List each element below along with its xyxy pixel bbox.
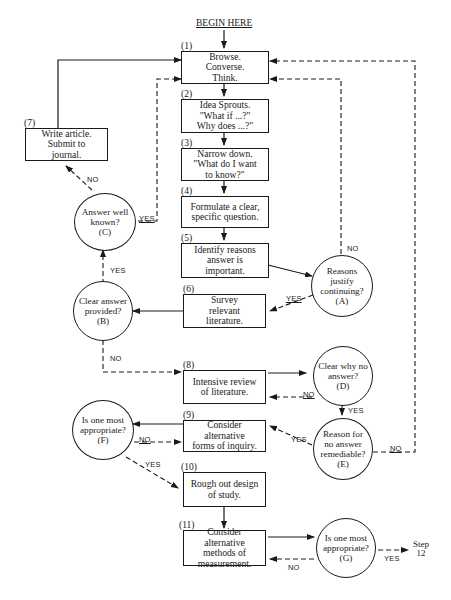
step-6-survey-literature[interactable]: Survey relevant literature. [183,294,266,328]
label-d-yes: YES [348,406,364,415]
step-2-idea-sprouts[interactable]: Idea Sprouts. "What if ...?" Why does ..… [181,99,269,133]
decision-e-reason-remediable[interactable]: Reason for no answer remediable? (E) [313,418,373,480]
step-5-identify-reasons[interactable]: Identify reasons answer is important. [181,243,269,278]
label-e-yes: YES [291,435,307,444]
label-g-no: NO [288,563,300,572]
decision-f-one-most-appropriate[interactable]: Is one most appropriate? (F) [72,400,134,460]
label-f-yes: YES [145,460,161,469]
step-7-write-article[interactable]: Write article. Submit to journal. [25,128,108,161]
label-b-yes: YES [110,266,126,275]
step-4-number: (4) [181,186,192,196]
label-a-yes: YES [286,294,302,303]
label-c-no: NO [87,175,99,184]
decision-g-one-most-appropriate[interactable]: Is one most appropriate? (G) [316,518,376,578]
label-g-yes: YES [384,554,400,563]
decision-d-clear-why-no-answer[interactable]: Clear why no answer? (D) [313,346,373,406]
label-f-no: NO [139,435,151,444]
step-4-formulate-question[interactable]: Formulate a clear, specific question. [181,196,269,228]
decision-b-clear-answer[interactable]: Clear answer provided? (B) [73,281,133,341]
step-1-browse[interactable]: Browse. Converse. Think. [181,51,269,84]
label-c-yes: YES [139,214,155,223]
step-8-intensive-review[interactable]: Intensive review of literature. [183,370,266,404]
step-9-alternative-inquiry[interactable]: Consider alternative forms of inquiry. [183,420,266,452]
step-11-alternative-measurement[interactable]: Consider alternative methods of measurem… [183,530,266,566]
step-9-number: (9) [183,410,194,420]
decision-a-reasons-justify[interactable]: Reasons justify continuing? (A) [311,255,373,317]
label-b-no: NO [110,354,122,363]
step-3-narrow-down[interactable]: Narrow down. "What do I want to know?" [181,148,269,181]
label-e-no: NO [390,444,402,453]
begin-here-label: BEGIN HERE [196,18,252,28]
label-a-no: NO [347,244,359,253]
step-10-rough-out-design[interactable]: Rough out design of study. [183,472,266,507]
step-12-label: Step 12 [413,540,429,558]
step-5-number: (5) [181,233,192,243]
step-3-number: (3) [181,138,192,148]
decision-c-answer-well-known[interactable]: Answer well known? (C) [74,193,136,251]
step-8-number: (8) [183,360,194,370]
step-2-number: (2) [181,89,192,99]
label-d-no: NO [303,390,315,399]
step-10-number: (10) [181,462,197,472]
step-1-number: (1) [181,41,192,51]
step-7-number: (7) [24,118,35,128]
step-6-number: (6) [183,284,194,294]
